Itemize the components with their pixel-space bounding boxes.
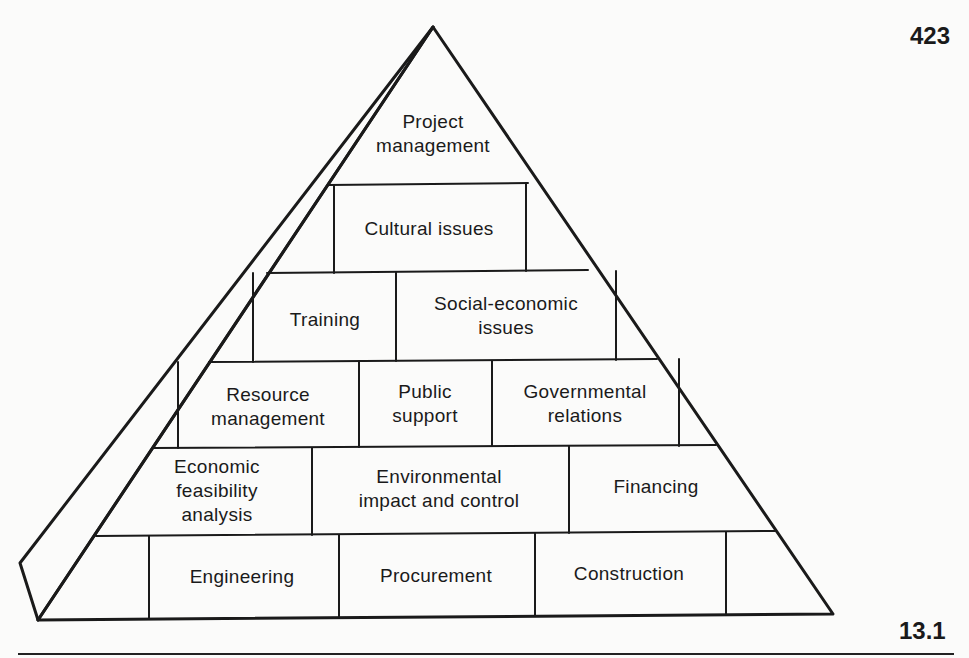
block-social-economic-issues: Social-economic issues <box>434 292 578 340</box>
block-engineering: Engineering <box>190 565 295 589</box>
bottom-rule <box>18 653 954 655</box>
block-governmental-relations: Governmental relations <box>524 380 647 428</box>
pyramid-side-face <box>20 27 433 620</box>
block-environmental-impact-control: Environmental impact and control <box>359 465 520 513</box>
page-number: 423 <box>910 22 950 50</box>
block-construction: Construction <box>574 562 684 586</box>
block-project-management: Project management <box>376 110 490 158</box>
block-cultural-issues: Cultural issues <box>364 217 493 241</box>
block-training: Training <box>290 308 360 332</box>
block-economic-feasibility-analysis: Economic feasibility analysis <box>174 455 260 527</box>
block-financing: Financing <box>613 475 698 499</box>
block-procurement: Procurement <box>380 564 492 588</box>
figure-number: 13.1 <box>899 617 946 645</box>
block-public-support: Public support <box>392 380 457 428</box>
block-resource-management: Resource management <box>211 383 325 431</box>
